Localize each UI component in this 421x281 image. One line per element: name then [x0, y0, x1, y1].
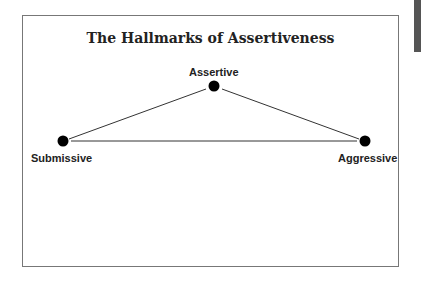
node-assertive-dot [209, 81, 220, 92]
node-assertive-label: Assertive [189, 66, 239, 78]
node-submissive-dot [58, 136, 69, 147]
triangle-diagram [0, 0, 421, 281]
node-aggressive-dot [360, 136, 371, 147]
edge-assertive-aggressive [222, 89, 359, 139]
node-submissive-label: Submissive [31, 152, 92, 164]
node-aggressive-label: Aggressive [338, 152, 397, 164]
edge-submissive-assertive [69, 89, 206, 139]
